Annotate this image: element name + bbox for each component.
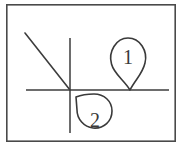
diagram-svg: 1 2 (0, 0, 184, 156)
diagram-canvas: 1 2 (0, 0, 184, 156)
marker-1-label: 1 (123, 46, 133, 68)
marker-2-label: 2 (90, 109, 100, 131)
